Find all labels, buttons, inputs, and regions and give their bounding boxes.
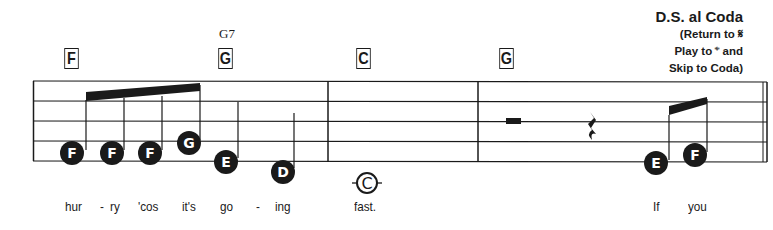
note-d: D bbox=[271, 160, 295, 184]
lyric-hyphen: - bbox=[256, 199, 260, 214]
music-staff: FFFGEDEF C bbox=[0, 0, 773, 230]
note-e: E bbox=[214, 150, 238, 174]
beam-measure-1 bbox=[86, 83, 200, 101]
lyric-syllable: ing bbox=[275, 199, 291, 214]
noteheads: FFFGEDEF bbox=[60, 131, 707, 184]
note-f: F bbox=[100, 141, 124, 165]
half-rest-icon bbox=[506, 118, 521, 124]
note-letter: F bbox=[67, 145, 77, 161]
quarter-rest-icon bbox=[588, 112, 596, 140]
note-g: G bbox=[177, 131, 201, 155]
lyric-syllable: it's bbox=[182, 199, 196, 214]
note-letter: F bbox=[690, 147, 700, 163]
note-f: F bbox=[138, 141, 162, 165]
lyric-syllable: If bbox=[653, 199, 660, 214]
note-letter: D bbox=[277, 164, 289, 180]
note-letter: E bbox=[221, 154, 231, 170]
note-e: E bbox=[644, 151, 668, 175]
coda-note: C bbox=[352, 173, 382, 193]
lyric-syllable: go bbox=[220, 199, 233, 214]
coda-note-letter: C bbox=[361, 174, 372, 193]
lyric-syllable: fast. bbox=[354, 199, 376, 214]
lyric-syllable: 'cos bbox=[138, 199, 158, 214]
stems bbox=[86, 85, 707, 168]
note-letter: F bbox=[145, 145, 155, 161]
note-letter: E bbox=[651, 155, 661, 171]
lyric-syllable: ry bbox=[110, 199, 120, 214]
note-letter: G bbox=[183, 135, 195, 151]
lyric-syllable: you bbox=[688, 199, 707, 214]
note-f: F bbox=[60, 141, 84, 165]
lyric-hyphen: - bbox=[100, 199, 104, 214]
lyric-syllable: hur bbox=[65, 199, 82, 214]
note-f: F bbox=[683, 143, 707, 167]
note-letter: F bbox=[107, 145, 117, 161]
beam-measure-4 bbox=[669, 97, 707, 115]
